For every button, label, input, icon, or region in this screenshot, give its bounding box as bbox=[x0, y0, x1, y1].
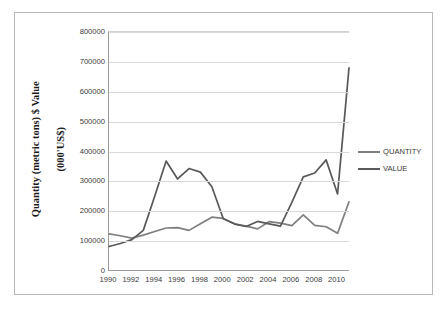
y-axis-tick-label: 400000 bbox=[80, 146, 105, 155]
gridline bbox=[109, 122, 349, 123]
x-axis-tick-label: 2002 bbox=[237, 275, 254, 284]
x-axis-tick-label: 1996 bbox=[168, 275, 185, 284]
chart-figure: Quantity (metric tons) $ Value (000'US$)… bbox=[0, 0, 447, 315]
plot-area bbox=[108, 31, 349, 271]
gridline bbox=[109, 32, 349, 33]
y-axis-tick-label: 100000 bbox=[80, 236, 105, 245]
x-axis-tick-label: 1998 bbox=[191, 275, 208, 284]
legend-item[interactable]: VALUE bbox=[358, 160, 436, 177]
gridline bbox=[109, 62, 349, 63]
y-axis-title-line-1: Quantity (metric tons) $ Value bbox=[29, 49, 42, 249]
chart-legend: QUANTITYVALUE bbox=[358, 143, 436, 177]
x-axis-tick-label: 1992 bbox=[122, 275, 139, 284]
legend-item[interactable]: QUANTITY bbox=[358, 143, 436, 160]
series-line-value bbox=[109, 68, 349, 247]
y-axis-tick-label: 500000 bbox=[80, 116, 105, 125]
gridline bbox=[109, 152, 349, 153]
x-axis-tick-label: 2000 bbox=[214, 275, 231, 284]
y-axis-tick-label: 600000 bbox=[80, 86, 105, 95]
legend-label: QUANTITY bbox=[383, 147, 421, 156]
x-axis-tick-label: 2006 bbox=[282, 275, 299, 284]
x-axis-tick-label: 2004 bbox=[260, 275, 277, 284]
gridline bbox=[109, 241, 349, 242]
legend-line-icon bbox=[358, 168, 380, 170]
gridline bbox=[109, 181, 349, 182]
x-axis-tick-label: 2008 bbox=[305, 275, 322, 284]
y-axis-tick-labels: 8000007000006000005000004000003000002000… bbox=[55, 20, 107, 276]
y-axis-tick-label: 300000 bbox=[80, 176, 105, 185]
x-axis-tick-label: 2010 bbox=[328, 275, 345, 284]
x-axis-tick-label: 1994 bbox=[145, 275, 162, 284]
y-axis-tick-label: 800000 bbox=[80, 27, 105, 36]
legend-line-icon bbox=[358, 151, 380, 153]
x-axis-tick-labels: 1990199219941996199820002002200420062008… bbox=[108, 275, 348, 291]
y-axis-tick-label: 700000 bbox=[80, 56, 105, 65]
legend-label: VALUE bbox=[383, 164, 407, 173]
gridline bbox=[109, 211, 349, 212]
y-axis-tick-label: 0 bbox=[101, 266, 105, 275]
x-axis-tick-label: 1990 bbox=[100, 275, 117, 284]
series-line-quantity bbox=[109, 202, 349, 238]
y-axis-tick-label: 200000 bbox=[80, 206, 105, 215]
gridline bbox=[109, 92, 349, 93]
